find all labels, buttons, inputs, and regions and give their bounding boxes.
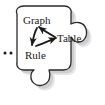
figure-canvas: Graph Table Rule bbox=[0, 0, 105, 105]
node-label-rule: Rule bbox=[25, 50, 46, 61]
node-label-table: Table bbox=[57, 33, 81, 44]
puzzle-piece-diagram bbox=[0, 0, 105, 105]
node-label-graph: Graph bbox=[23, 15, 51, 26]
ellipsis-dots bbox=[4, 52, 13, 55]
